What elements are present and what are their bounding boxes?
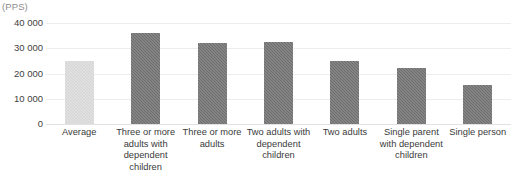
x-axis-label-line: adults with [110, 139, 180, 151]
x-axis-label-line: Single parent [376, 127, 446, 139]
x-axis-label-line: Single person [443, 127, 513, 139]
bar[interactable] [131, 33, 160, 124]
gridline [46, 23, 511, 24]
y-axis-tick-label: 0 [1, 119, 43, 129]
x-axis-label-line: Average [44, 127, 114, 139]
bar[interactable] [264, 42, 293, 124]
y-axis: 40 00030 00020 00010 0000 [0, 0, 43, 178]
bar[interactable] [463, 85, 492, 124]
x-axis-label-line: Three or more [177, 127, 247, 139]
y-axis-tick-label: 30 000 [1, 43, 43, 53]
x-axis-label-line: children [376, 150, 446, 162]
x-axis-label-line: Two adults with [243, 127, 313, 139]
x-axis-label-line: Two adults [310, 127, 380, 139]
x-axis-label-line: children [110, 162, 180, 174]
plot-area [46, 23, 511, 124]
x-axis-category-label: Three or moreadults [177, 127, 247, 150]
y-axis-tick-label: 40 000 [1, 18, 43, 28]
x-axis-label-line: adults [177, 139, 247, 151]
x-axis-category-label: Two adults [310, 127, 380, 139]
x-axis-label-line: children [243, 150, 313, 162]
bar[interactable] [198, 43, 227, 124]
gridline [46, 124, 511, 125]
y-axis-tick-label: 10 000 [1, 94, 43, 104]
x-axis-category-label: Two adults withdependentchildren [243, 127, 313, 162]
x-axis-category-label: Average [44, 127, 114, 139]
x-axis-category-label: Single person [443, 127, 513, 139]
x-axis: AverageThree or moreadults withdependent… [46, 127, 511, 178]
x-axis-label-line: Three or more [110, 127, 180, 139]
x-axis-label-line: with dependent [376, 139, 446, 151]
y-axis-tick-label: 20 000 [1, 69, 43, 79]
x-axis-label-line: dependent [243, 139, 313, 151]
bar[interactable] [397, 68, 426, 124]
bar[interactable] [65, 61, 94, 124]
x-axis-category-label: Three or moreadults withdependentchildre… [110, 127, 180, 173]
bar[interactable] [330, 61, 359, 124]
x-axis-category-label: Single parentwith dependentchildren [376, 127, 446, 162]
x-axis-label-line: dependent [110, 150, 180, 162]
bar-chart: (PPS) 40 00030 00020 00010 0000 AverageT… [0, 0, 514, 178]
